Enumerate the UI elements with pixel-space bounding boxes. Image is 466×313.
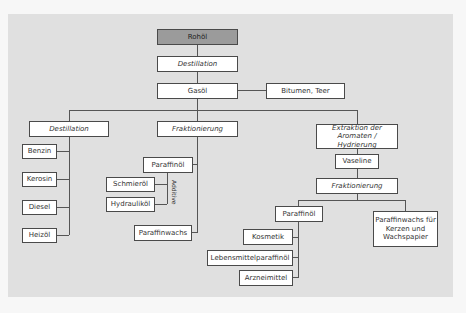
node-fraktionierung-right: Fraktionierung [316,178,398,194]
node-bitumen-teer: Bitumen, Teer [266,83,345,99]
connector [357,193,358,200]
node-heizoel: Heizöl [22,228,57,243]
node-paraffinwachs-kerzen: Paraffinwachs für Kerzen und Wachspapier [373,211,438,247]
connector [56,151,69,152]
connector [405,200,406,211]
node-diesel: Diesel [22,200,57,215]
connector [167,172,168,204]
connector [56,235,69,236]
connector [197,44,198,56]
connector [154,184,167,185]
node-paraffinoel-right: Paraffinöl [275,206,323,222]
node-benzin: Benzin [22,144,57,159]
node-vaseline: Vaseline [335,154,379,169]
node-destillation-top: Destillation [157,56,238,72]
connector [154,204,167,205]
connector [357,110,358,124]
node-kerosin: Kerosin [22,172,57,187]
node-extraktion: Extraktion der Aromaten / Hydrierung [316,124,398,149]
node-fraktionierung-mid: Fraktionierung [157,121,238,137]
connector [56,179,69,180]
node-lebensmittelparaffinoel: Lebensmittelparaffinöl [207,250,293,266]
extraktion-line1: Extraktion der [332,124,382,133]
wachs-line3: Wachspapier [383,233,428,242]
connector [69,110,357,111]
connector [56,207,69,208]
node-arzneimittel: Arzneimittel [239,270,293,286]
node-kosmetik: Kosmetik [243,229,293,245]
node-schmieroel: Schmieröl [106,177,155,192]
connector [298,200,406,201]
connector [197,71,198,83]
node-hydraulikoel: Hydrauliköl [106,197,155,212]
connector [298,221,299,278]
connector [357,168,358,178]
node-gasoel: Gasöl [157,83,238,99]
wachs-line1: Paraffinwachs für [375,216,436,225]
node-paraffinwachs-mid: Paraffinwachs [134,225,192,241]
connector [69,136,70,235]
connector [69,110,70,121]
connector [197,136,198,233]
wachs-line2: Kerzen und [386,225,425,234]
node-paraffinoel-mid: Paraffinöl [143,157,193,173]
node-destillation-left: Destillation [29,121,109,137]
extraktion-line2: Aromaten / Hydrierung [317,132,397,149]
node-rohoel: Rohöl [157,29,238,45]
additive-label: Additive [171,180,178,205]
connector [237,90,266,91]
